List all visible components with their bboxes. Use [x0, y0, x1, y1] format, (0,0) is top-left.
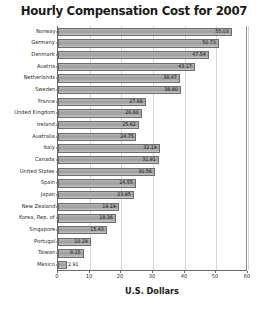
category-label: Korea, Rep. of [19, 216, 55, 221]
bar-value-label: 30.56 [138, 169, 152, 174]
bar[interactable]: 43.17 [58, 63, 195, 72]
bar-value-label: 23.95 [117, 193, 131, 198]
bar-row: Spain24.55 [58, 179, 246, 188]
bar[interactable]: 38.80 [58, 86, 181, 95]
x-axis-tick-label: 60 [244, 274, 251, 279]
bar-value-label: 26.60 [126, 111, 140, 116]
bar-value-label: 8.15 [70, 251, 81, 256]
x-axis-tick-label: 20 [117, 274, 124, 279]
category-label: Mexico [37, 262, 55, 267]
bar-value-label: 55.03 [216, 29, 230, 34]
bar-row: Korea, Rep. of18.36 [58, 214, 246, 223]
bar-row: New Zealand19.19 [58, 203, 246, 212]
plot-area: Norway55.03Germany50.73Denmark47.54Austr… [57, 26, 247, 271]
category-label: Spain [41, 181, 55, 186]
bar[interactable]: 26.60 [58, 109, 142, 118]
bar[interactable]: 25.62 [58, 121, 139, 130]
gridline [248, 26, 249, 270]
bar[interactable]: 50.73 [58, 39, 219, 48]
bar-row: Ireland25.62 [58, 121, 246, 130]
bar[interactable]: 8.15 [58, 249, 84, 258]
bar-row: Singapore15.43 [58, 226, 246, 235]
bar[interactable]: 18.36 [58, 214, 116, 223]
bar-value-label: 27.68 [129, 99, 143, 104]
bar[interactable]: 47.54 [58, 51, 209, 60]
x-axis-tick-label: 40 [180, 274, 187, 279]
bar-value-label: 32.19 [143, 146, 157, 151]
x-axis-tick-label: 30 [149, 274, 156, 279]
bar[interactable]: 19.19 [58, 203, 119, 212]
bar-row: Sweden38.80 [58, 86, 246, 95]
category-label: Japan [41, 192, 55, 197]
bar-row: Canada31.91 [58, 156, 246, 165]
bar-value-label: 47.54 [192, 53, 206, 58]
category-label: New Zealand [21, 204, 55, 209]
category-label: Canada [36, 157, 55, 162]
x-axis: 0102030405060 [57, 271, 247, 281]
category-label: Portugal [34, 239, 55, 244]
bar-row: Denmark47.54 [58, 51, 246, 60]
bar[interactable]: 55.03 [58, 28, 232, 37]
bar-chart: Hourly Compensation Cost for 2007 Norway… [0, 0, 268, 315]
bar-value-label: 10.29 [74, 239, 88, 244]
category-label: Norway [36, 29, 55, 34]
bar[interactable]: 10.29 [58, 238, 91, 247]
x-axis-title: U.S. Dollars [62, 286, 243, 296]
category-label: Netherlands [24, 76, 55, 81]
category-label: Denmark [31, 52, 55, 57]
bar-rows: Norway55.03Germany50.73Denmark47.54Austr… [58, 26, 246, 270]
bar-row: Japan23.95 [58, 191, 246, 200]
bar[interactable]: 23.95 [58, 191, 134, 200]
bar-row: Portugal10.29 [58, 238, 246, 247]
bar-row: Norway55.03 [58, 28, 246, 37]
bar[interactable]: 15.43 [58, 226, 107, 235]
bar-row: Australia24.75 [58, 133, 246, 142]
bar-row: United States30.56 [58, 168, 246, 177]
bar[interactable]: 32.19 [58, 144, 160, 153]
bar-row: Austria43.17 [58, 63, 246, 72]
bar-value-label: 38.80 [164, 88, 178, 93]
bar[interactable]: 27.68 [58, 98, 146, 107]
bar-value-label: 15.43 [90, 228, 104, 233]
category-label: Taiwan [38, 251, 55, 256]
x-axis-tick-label: 50 [212, 274, 219, 279]
bar[interactable]: 38.47 [58, 74, 180, 83]
bar-value-label: 50.73 [202, 41, 216, 46]
category-label: Austria [37, 64, 55, 69]
bar-row: Italy32.19 [58, 144, 246, 153]
bar-value-label: 18.36 [99, 216, 113, 221]
category-label: United Kingdom [14, 111, 55, 116]
bar-value-label: 38.47 [163, 76, 177, 81]
bar-value-label: 24.55 [119, 181, 133, 186]
bar[interactable]: 24.75 [58, 133, 136, 142]
bar[interactable]: 30.56 [58, 168, 155, 177]
x-axis-tick-label: 0 [55, 274, 58, 279]
bar-row: United Kingdom26.60 [58, 109, 246, 118]
bar[interactable]: 2.91 [58, 261, 67, 270]
category-label: Singapore [29, 227, 55, 232]
bar-row: Netherlands38.47 [58, 74, 246, 83]
bar[interactable]: 31.91 [58, 156, 159, 165]
category-label: France [38, 99, 55, 104]
category-label: Ireland [37, 122, 55, 127]
bar-row: Mexico2.91 [58, 261, 246, 270]
bar[interactable]: 24.55 [58, 179, 136, 188]
category-label: Sweden [35, 87, 55, 92]
bar-value-label: 19.19 [102, 204, 116, 209]
category-label: Italy [44, 146, 55, 151]
category-label: United States [20, 169, 55, 174]
x-axis-tick-label: 10 [85, 274, 92, 279]
bar-value-label: 31.91 [142, 158, 156, 163]
bar-row: Taiwan8.15 [58, 249, 246, 258]
category-label: Australia [32, 134, 55, 139]
bar-value-label: 24.75 [120, 134, 134, 139]
chart-title: Hourly Compensation Cost for 2007 [8, 3, 260, 18]
category-label: Germany [31, 41, 55, 46]
bar-value-label: 25.62 [122, 123, 136, 128]
bar-row: Germany50.73 [58, 39, 246, 48]
bar-value-label: 43.17 [178, 64, 192, 69]
bar-row: France27.68 [58, 98, 246, 107]
bar-value-label: 2.91 [68, 263, 79, 268]
